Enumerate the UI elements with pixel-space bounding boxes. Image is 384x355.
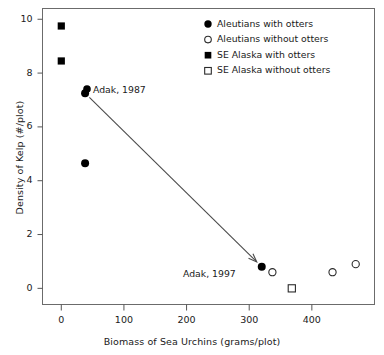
x-tick-label: 200 — [167, 314, 207, 325]
data-point-filled-square — [58, 57, 65, 64]
data-point-open-square — [205, 67, 212, 74]
data-point-filled-square — [58, 22, 65, 29]
annotation-adak-1997: Adak, 1997 — [183, 268, 236, 279]
y-tick-label: 0 — [7, 282, 33, 293]
legend-markers — [204, 20, 211, 74]
y-tick-label: 8 — [7, 67, 33, 78]
annotation-arrow — [89, 97, 256, 261]
scatter-plot-figure: Biomass of Sea Urchins (grams/plot) Dens… — [0, 0, 384, 355]
data-point-open-circle — [352, 261, 359, 268]
legend-item-label: Aleutians with otters — [217, 18, 313, 29]
y-axis-tick-marks — [38, 19, 43, 288]
data-point-filled-square — [205, 52, 212, 59]
data-point-filled-circle — [83, 85, 91, 93]
y-tick-label: 2 — [7, 228, 33, 239]
x-tick-label: 300 — [229, 314, 269, 325]
annotation-markers — [83, 85, 91, 93]
y-axis-title: Density of Kelp (#/plot) — [14, 63, 25, 253]
x-axis-tick-marks — [61, 305, 312, 311]
y-tick-label: 10 — [7, 13, 33, 24]
data-point-filled-circle — [81, 159, 89, 167]
data-point-filled-circle — [204, 20, 211, 27]
data-point-open-square — [288, 285, 295, 292]
data-points-layer — [58, 22, 360, 292]
annotation-adak-1987: Adak, 1987 — [93, 84, 146, 95]
data-point-open-circle — [205, 36, 212, 43]
plot-canvas — [0, 0, 384, 355]
legend-item-label: Aleutians without otters — [217, 33, 328, 44]
y-tick-label: 4 — [7, 174, 33, 185]
data-point-open-circle — [269, 269, 276, 276]
x-tick-label: 400 — [292, 314, 332, 325]
data-point-filled-circle — [258, 263, 266, 271]
x-tick-label: 0 — [41, 314, 81, 325]
legend-item-label: SE Alaska with otters — [217, 49, 315, 60]
legend-item-label: SE Alaska without otters — [217, 64, 330, 75]
y-tick-label: 6 — [7, 120, 33, 131]
data-point-open-circle — [329, 269, 336, 276]
x-tick-label: 100 — [104, 314, 144, 325]
x-axis-title: Biomass of Sea Urchins (grams/plot) — [0, 336, 384, 347]
